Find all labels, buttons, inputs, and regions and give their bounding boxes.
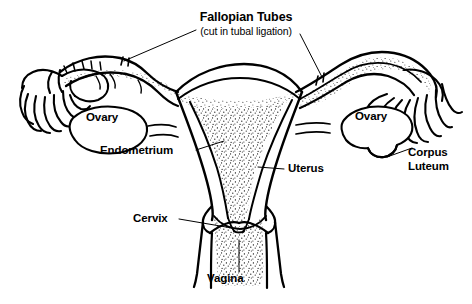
label-ovary-left: Ovary: [86, 111, 118, 124]
label-endometrium: Endometrium: [100, 144, 173, 157]
title-fallopian-tubes: Fallopian Tubes: [186, 10, 306, 24]
label-ovary-right: Ovary: [355, 110, 387, 123]
label-corpus-luteum-line2: Luteum: [408, 160, 449, 173]
label-uterus: Uterus: [288, 162, 324, 175]
title-fallopian-tubes-subtitle: (cut in tubal ligation): [178, 26, 314, 38]
anatomy-illustration: [0, 0, 472, 304]
anatomy-diagram: Fallopian Tubes (cut in tubal ligation) …: [0, 0, 472, 304]
label-vagina: Vagina: [207, 272, 243, 285]
label-corpus-luteum-line1: Corpus: [408, 146, 448, 159]
label-cervix: Cervix: [133, 212, 168, 225]
